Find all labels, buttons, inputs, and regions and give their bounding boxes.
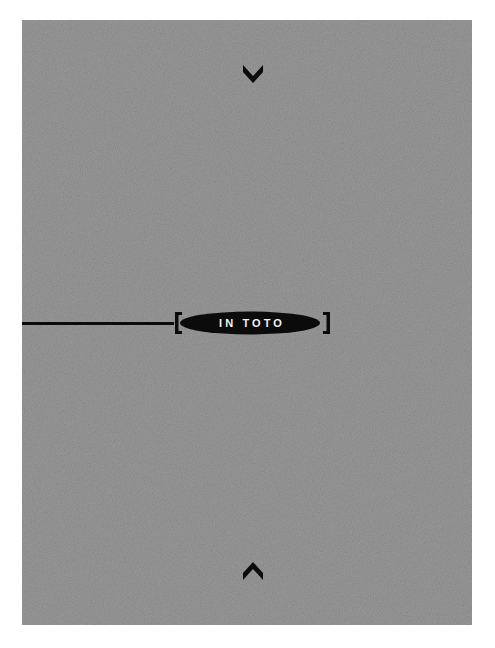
badge-label: IN TOTO [219,317,285,329]
gray-plate: IN TOTO [22,20,472,625]
artwork: IN TOTO [22,20,472,625]
chevron-up-icon [243,562,263,580]
bracket-right-icon [323,312,330,334]
chevron-down-icon [243,65,263,83]
